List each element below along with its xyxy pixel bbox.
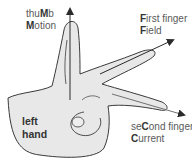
fingernail [72,117,84,127]
first-finger-arrow [100,40,173,74]
first-finger-label: First finger Field [140,13,187,37]
second-finger-label: seCond finger Current [131,121,192,145]
hand-label: left hand [22,115,47,141]
thumb-label: thuMb Motion [26,8,56,32]
